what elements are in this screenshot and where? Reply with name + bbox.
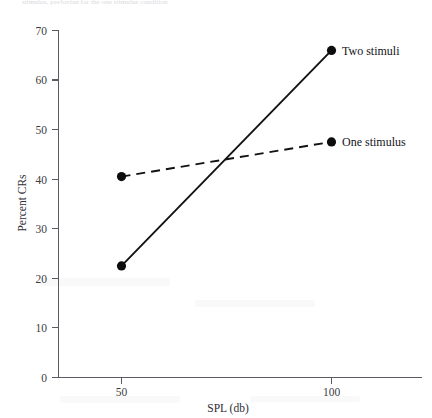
series-two-stimuli-line xyxy=(122,50,332,266)
series-two-stimuli: Two stimuli xyxy=(117,44,400,271)
x-axis-title: SPL (db) xyxy=(207,402,249,415)
data-point-two-stimuli-50 xyxy=(117,261,126,270)
x-tick-label-50: 50 xyxy=(116,386,128,398)
y-tick-label-70: 70 xyxy=(36,25,48,37)
data-point-two-stimuli-100 xyxy=(327,46,336,55)
y-tick-label-10: 10 xyxy=(36,322,48,334)
y-tick-label-30: 30 xyxy=(36,223,48,235)
y-tick-label-60: 60 xyxy=(36,74,48,86)
y-axis-title: Percent CRs xyxy=(16,174,28,232)
data-point-one-stimulus-100 xyxy=(327,137,336,146)
figure-container: stimulus, pavlovian for the one stimulus… xyxy=(0,0,432,418)
line-chart-svg: 70 60 50 40 30 20 10 0 50 100 SPL (db) P… xyxy=(0,0,432,418)
y-tick-label-50: 50 xyxy=(36,124,48,136)
y-axis-ticks xyxy=(52,31,59,378)
series-label-two-stimuli: Two stimuli xyxy=(342,44,400,58)
x-tick-label-100: 100 xyxy=(323,386,341,398)
series-label-one-stimulus: One stimulus xyxy=(342,135,406,149)
y-tick-label-20: 20 xyxy=(36,273,48,285)
y-tick-label-0: 0 xyxy=(41,372,47,384)
series-one-stimulus: One stimulus xyxy=(117,135,406,181)
y-axis-tick-labels: 70 60 50 40 30 20 10 0 xyxy=(36,25,48,384)
x-axis-tick-labels: 50 100 xyxy=(116,386,341,398)
y-tick-label-40: 40 xyxy=(36,174,48,186)
data-point-one-stimulus-50 xyxy=(117,172,126,181)
x-axis-ticks xyxy=(122,378,332,385)
